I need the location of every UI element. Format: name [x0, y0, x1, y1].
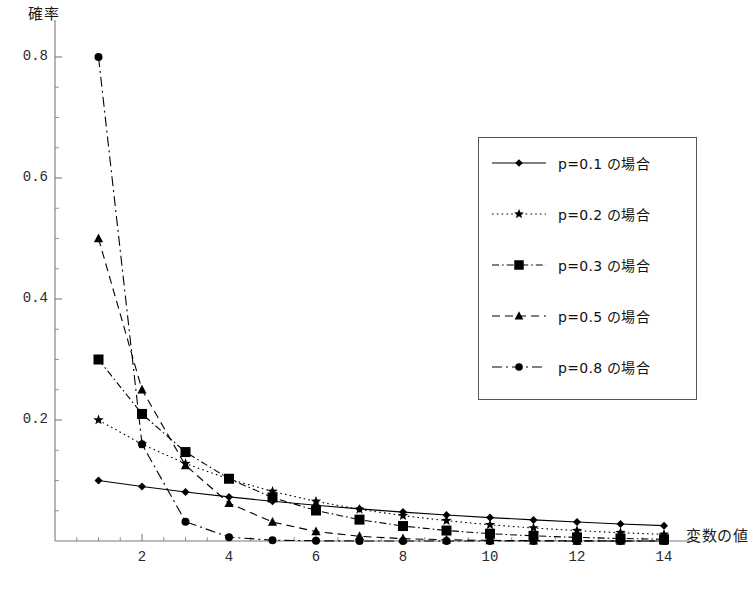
y-axis-title: 確率 — [28, 2, 59, 23]
legend-item[interactable]: p=0.1 の場合 — [479, 148, 696, 178]
y-tick-label: 0.2 — [2, 411, 48, 427]
x-tick-label: 8 — [388, 549, 418, 565]
x-tick-label: 4 — [214, 549, 244, 565]
x-tick-label: 12 — [562, 549, 592, 565]
legend-item[interactable]: p=0.5 の場合 — [479, 301, 696, 331]
x-tick-label: 2 — [127, 549, 157, 565]
x-axis-title: 変数の値 — [686, 524, 748, 545]
series-0-1 — [95, 477, 669, 530]
series-0-2 — [93, 415, 669, 539]
legend-line-sample — [490, 152, 548, 174]
legend-label: p=0.5 の場合 — [558, 306, 650, 326]
y-tick-label: 0.8 — [2, 48, 48, 64]
x-tick-label: 6 — [301, 549, 331, 565]
x-tick-label: 14 — [649, 549, 679, 565]
legend-item[interactable]: p=0.8 の場合 — [479, 352, 696, 382]
legend-item[interactable]: p=0.2 の場合 — [479, 199, 696, 229]
legend-label: p=0.2 の場合 — [558, 204, 650, 224]
y-tick-label: 0.6 — [2, 169, 48, 185]
legend-label: p=0.1 の場合 — [558, 153, 650, 173]
legend-line-sample — [490, 356, 548, 378]
legend: p=0.1 の場合p=0.2 の場合p=0.3 の場合p=0.5 の場合p=0.… — [478, 137, 697, 400]
legend-line-sample — [490, 305, 548, 327]
legend-label: p=0.8 の場合 — [558, 357, 650, 377]
y-tick-label: 0.4 — [2, 290, 48, 306]
chart-figure: 確率 変数の値 0.20.40.60.82468101214 p=0.1 の場合… — [0, 0, 748, 604]
legend-line-sample — [490, 203, 548, 225]
legend-label: p=0.3 の場合 — [558, 255, 650, 275]
legend-item[interactable]: p=0.3 の場合 — [479, 250, 696, 280]
legend-line-sample — [490, 254, 548, 276]
x-tick-label: 10 — [475, 549, 505, 565]
